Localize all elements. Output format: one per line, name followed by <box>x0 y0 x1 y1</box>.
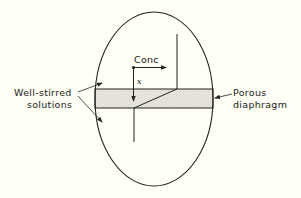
diffusion-cell-diagram: Conc x Well-stirred solutions Porous dia… <box>0 0 301 198</box>
conc-axis-label: Conc <box>134 54 159 65</box>
porous-diaphragm <box>95 89 213 108</box>
porous-label-line2: diaphragm <box>233 99 287 110</box>
leader-diaphragm <box>215 94 232 98</box>
x-axis-label: x <box>137 77 142 86</box>
well-stirred-label-line2: solutions <box>27 99 72 110</box>
well-stirred-label-line1: Well-stirred <box>14 87 72 98</box>
porous-label-line1: Porous <box>233 87 266 98</box>
